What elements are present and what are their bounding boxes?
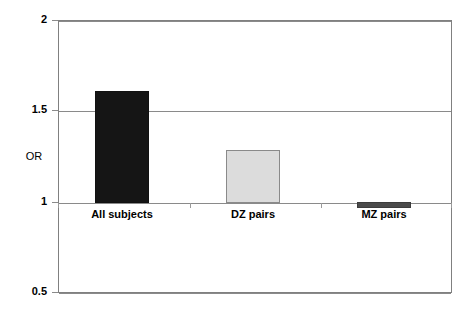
bar-chart-figure: OR 2 1.5 1 0.5 All subjects DZ pairs MZ … — [0, 0, 474, 314]
y-tick-label-0-5: 0.5 — [8, 286, 52, 297]
gridline-2 — [59, 21, 451, 22]
category-label-all-subjects: All subjects — [56, 208, 188, 221]
category-label-mz-pairs: MZ pairs — [318, 208, 450, 221]
y-axis-title: OR — [14, 150, 54, 163]
bar-all-subjects — [95, 91, 149, 203]
y-tick-label-2: 2 — [8, 14, 52, 25]
y-tick-label-1: 1 — [8, 196, 52, 207]
bar-dz-pairs — [226, 150, 280, 203]
y-tick-label-1-5: 1.5 — [8, 104, 52, 115]
gridline-0-5 — [59, 293, 451, 294]
category-label-dz-pairs: DZ pairs — [187, 208, 319, 221]
x-tick-mark-3 — [451, 203, 452, 208]
